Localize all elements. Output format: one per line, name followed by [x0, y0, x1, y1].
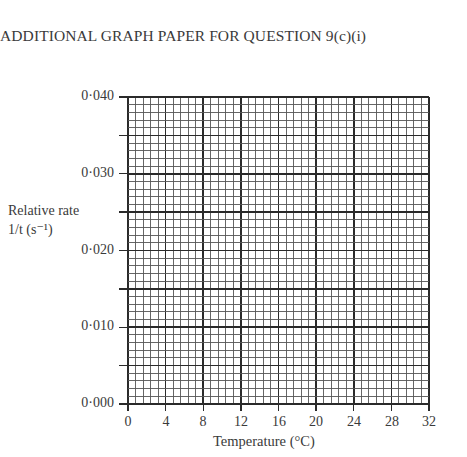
x-tick-label: 20	[301, 414, 331, 430]
x-tick-label: 32	[414, 414, 444, 430]
x-tick-label: 8	[188, 414, 218, 430]
x-tick-label: 4	[151, 414, 181, 430]
x-tick-label: 28	[377, 414, 407, 430]
x-tick-label: 0	[113, 414, 143, 430]
x-axis-label: Temperature (°C)	[213, 433, 315, 450]
x-tick-label: 12	[226, 414, 256, 430]
x-tick-label: 16	[264, 414, 294, 430]
x-tick-label: 24	[339, 414, 369, 430]
graph-paper-grid	[0, 0, 467, 457]
